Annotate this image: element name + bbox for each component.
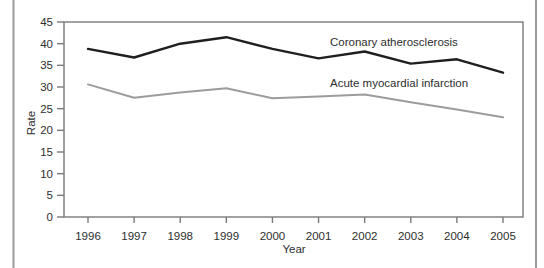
y-tick-label: 5: [47, 189, 53, 201]
x-tick-label: 1999: [214, 230, 240, 242]
y-tick-label: 40: [40, 38, 53, 50]
y-tick-label: 25: [40, 103, 53, 115]
x-tick-label: 2004: [444, 230, 470, 242]
x-tick-label: 2000: [260, 230, 286, 242]
y-tick-label: 30: [40, 81, 53, 93]
y-tick-label: 45: [40, 16, 53, 28]
x-tick-label: 2002: [352, 230, 378, 242]
y-tick-label: 35: [40, 59, 53, 71]
x-tick-label: 2003: [398, 230, 424, 242]
x-tick-label: 1996: [75, 230, 101, 242]
y-tick-label: 0: [47, 211, 53, 223]
data-line-1: [88, 84, 503, 117]
series-label-coronary-atherosclerosis: Coronary atherosclerosis: [330, 36, 458, 48]
x-axis-title: Year: [282, 243, 305, 255]
figure: 051015202530354045 199619971998199920002…: [0, 0, 544, 268]
series-label-acute-myocardial-infarction: Acute myocardial infarction: [330, 77, 468, 89]
line-chart: 051015202530354045 199619971998199920002…: [0, 0, 544, 268]
y-tick-label: 15: [40, 146, 53, 158]
y-tick-label: 20: [40, 124, 53, 136]
x-axis-ticks: 1996199719981999200020012002200320042005: [75, 217, 516, 242]
y-axis-ticks: 051015202530354045: [40, 16, 64, 223]
y-tick-label: 10: [40, 168, 53, 180]
x-tick-label: 1997: [121, 230, 147, 242]
x-tick-label: 2001: [306, 230, 332, 242]
x-tick-label: 2005: [490, 230, 516, 242]
x-tick-label: 1998: [167, 230, 193, 242]
plot-frame: [64, 22, 523, 217]
y-axis-title: Rate: [25, 111, 37, 135]
